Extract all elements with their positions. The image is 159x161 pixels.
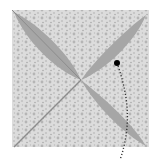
origami-diagram <box>0 0 159 161</box>
fold-marker-dot <box>114 60 120 66</box>
